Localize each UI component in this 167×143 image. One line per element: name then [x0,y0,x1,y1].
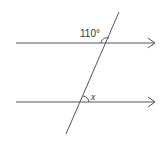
angle-label-x: x [90,91,96,102]
angle-label-110: 110° [80,28,100,39]
angle-arc-x [83,96,89,102]
diagram-canvas: 110° x [0,0,167,143]
